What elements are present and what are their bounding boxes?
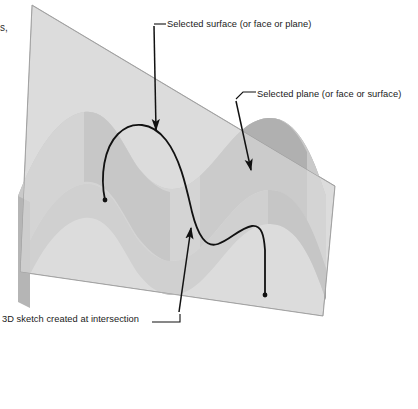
leader-plane-elbow — [236, 92, 256, 99]
label-selected-surface: Selected surface (or face or plane) — [167, 19, 311, 30]
curve-endpoint-left — [103, 198, 108, 203]
curve-endpoint-right — [263, 293, 268, 298]
label-selected-plane: Selected plane (or face or surface) — [257, 89, 401, 100]
leader-sketch-elbow — [152, 314, 180, 322]
page-edge-text-fragment: s, — [0, 22, 8, 33]
diagram-canvas — [0, 0, 418, 409]
label-3d-sketch: 3D sketch created at intersection — [2, 314, 139, 325]
